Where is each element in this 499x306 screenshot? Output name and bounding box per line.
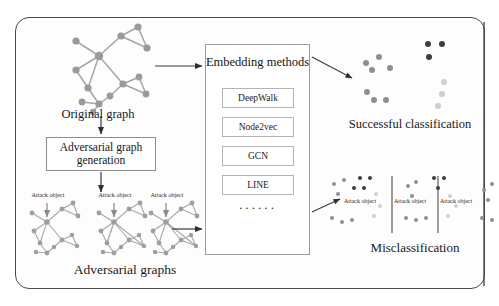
scatter-point-cluster-medium — [330, 216, 335, 221]
attack-object-label-1: Attack object — [22, 191, 74, 198]
scatter-point-cluster-medium — [490, 182, 495, 187]
scatter-point-cluster-medium — [332, 182, 337, 187]
scatter-point-cluster-dark — [358, 176, 363, 181]
scatter-point-cluster-dark — [362, 186, 367, 191]
misclassification-attack-label-3: Attack object — [440, 198, 472, 204]
scatter-point-cluster-medium — [364, 89, 371, 96]
method-deepwalk[interactable]: DeepWalk — [222, 88, 294, 108]
scatter-point-cluster-medium — [414, 218, 419, 223]
scatter-point-cluster-dark — [368, 176, 373, 181]
scatter-point-cluster-medium — [340, 220, 345, 225]
scatter-point-cluster-medium — [336, 192, 341, 197]
scatter-point-cluster-medium — [350, 218, 355, 223]
method-line-label: LINE — [247, 180, 269, 190]
scatter-point-cluster-medium — [482, 188, 487, 193]
scatter-point-cluster-dark — [426, 54, 433, 61]
scatter-point-cluster-medium — [387, 65, 394, 72]
adversarial-generation-box: Adversarial graph generation — [46, 137, 156, 171]
scatter-point-cluster-dark — [442, 176, 447, 181]
misclassification-attack-label-1: Attack object — [344, 198, 376, 204]
method-gcn[interactable]: GCN — [222, 146, 294, 166]
scatter-point-cluster-medium — [363, 60, 370, 67]
method-deepwalk-label: DeepWalk — [238, 93, 278, 103]
scatter-point-cluster-light — [441, 79, 448, 86]
successful-classification-scatter — [352, 30, 482, 118]
scatter-point-cluster-light — [374, 192, 379, 197]
scatter-point-cluster-medium — [486, 198, 491, 203]
method-node2vec-label: Node2vec — [239, 122, 278, 132]
scatter-point-cluster-light — [439, 91, 446, 98]
adversarial-graphs-label: Adversarial graphs — [45, 262, 205, 278]
scatter-point-cluster-dark — [425, 41, 432, 48]
adversarial-generation-label: Adversarial graph generation — [47, 141, 155, 167]
scatter-point-cluster-medium — [414, 180, 419, 185]
scatter-point-cluster-medium — [490, 218, 495, 223]
scatter-point-cluster-medium — [424, 216, 429, 221]
scatter-point-cluster-medium — [342, 178, 347, 183]
scatter-point-cluster-medium — [480, 216, 485, 221]
scatter-point-cluster-dark — [436, 186, 441, 191]
scatter-point-cluster-medium — [376, 54, 383, 61]
embedding-methods-ellipsis: ······ — [205, 200, 310, 216]
scatter-point-cluster-light — [372, 214, 377, 219]
original-graph-label: Original graph — [48, 107, 148, 122]
scatter-point-cluster-light — [378, 204, 383, 209]
embedding-methods-title: Embedding methods — [205, 55, 310, 70]
successful-classification-label: Successful classification — [330, 117, 490, 132]
scatter-point-cluster-light — [435, 103, 442, 110]
scatter-point-cluster-dark — [439, 41, 446, 48]
scatter-point-cluster-dark — [352, 186, 357, 191]
scatter-point-cluster-medium — [406, 184, 411, 189]
method-line[interactable]: LINE — [222, 175, 294, 195]
scatter-point-cluster-medium — [383, 97, 390, 104]
scatter-point-cluster-medium — [369, 67, 376, 74]
misclassification-attack-label-2: Attack object — [394, 198, 426, 204]
attack-object-label-3: Attack object — [141, 191, 193, 198]
scatter-point-cluster-medium — [404, 216, 409, 221]
attack-object-label-2: Attack object — [89, 191, 141, 198]
scatter-point-cluster-light — [446, 214, 451, 219]
scatter-point-cluster-dark — [432, 176, 437, 181]
scatter-point-cluster-light — [454, 204, 459, 209]
misclassification-label: Misclassification — [350, 240, 480, 256]
method-node2vec[interactable]: Node2vec — [222, 117, 294, 137]
method-gcn-label: GCN — [248, 151, 268, 161]
scatter-point-cluster-medium — [371, 97, 378, 104]
